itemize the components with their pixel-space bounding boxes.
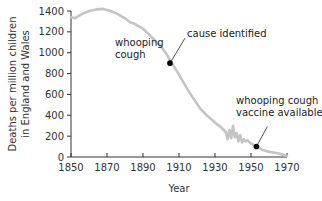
y-ticks: 0200400600800100012001400 <box>39 6 71 163</box>
y-tick-label: 1400 <box>39 6 64 17</box>
x-tick-label: 1850 <box>58 162 83 173</box>
x-axis-title: Year <box>167 183 190 194</box>
y-axis-title-line-1: Deaths per million children <box>7 16 18 151</box>
x-tick-label: 1870 <box>94 162 119 173</box>
marker-cause-identified <box>167 60 173 66</box>
marker-vaccine-available <box>254 144 260 150</box>
annotation-vaccine-line-1: whooping cough <box>236 95 318 106</box>
leader-line-vaccine-available <box>256 127 267 147</box>
y-tick-label: 0 <box>58 152 64 163</box>
leader-line-cause-identified <box>170 38 185 63</box>
y-axis-title: Deaths per million children in England a… <box>7 16 31 151</box>
series-label-line-2: cough <box>115 49 146 60</box>
x-tick-label: 1950 <box>238 162 263 173</box>
chart: Deaths per million children in England a… <box>0 0 322 201</box>
y-tick-label: 800 <box>45 68 64 79</box>
y-tick-label: 1200 <box>39 26 64 37</box>
y-tick-label: 1000 <box>39 47 64 58</box>
x-tick-label: 1910 <box>166 162 191 173</box>
y-tick-label: 200 <box>45 131 64 142</box>
x-tick-label: 1930 <box>202 162 227 173</box>
annotation-cause-identified: cause identified <box>187 28 267 39</box>
annotations: whooping cough cause identified whooping… <box>115 28 322 149</box>
y-tick-label: 400 <box>45 110 64 121</box>
x-tick-label: 1970 <box>274 162 299 173</box>
x-tick-label: 1890 <box>130 162 155 173</box>
annotation-vaccine-line-2: vaccine available <box>236 107 322 118</box>
y-tick-label: 600 <box>45 89 64 100</box>
x-ticks: 1850187018901910193019501970 <box>58 153 299 173</box>
y-axis-title-line-2: in England and Wales <box>20 30 31 138</box>
series-label-line-1: whooping <box>115 37 164 48</box>
